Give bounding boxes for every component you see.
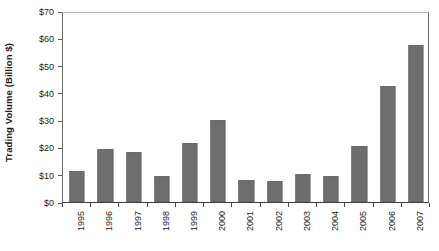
bar-slot [289,13,317,202]
x-axis-tick-mark [203,203,204,207]
bar-2003[interactable] [295,174,310,202]
x-axis-tick-mark [401,203,402,207]
y-axis-tick-label: $40 [39,89,54,99]
bars-layer [63,13,428,202]
bar-slot [402,13,430,202]
bar-slot [232,13,260,202]
y-axis-title-text: Trading Volume (Billion $) [4,43,15,162]
x-axis-tick-mark [344,203,345,207]
bar-2000[interactable] [211,120,226,202]
x-axis-tick-mark [147,203,148,207]
bar-slot [91,13,119,202]
bar-slot [176,13,204,202]
bar-slot [317,13,345,202]
bar-2006[interactable] [380,86,395,202]
bar-slot [374,13,402,202]
x-axis-tick-mark [316,203,317,207]
bar-chart: Trading Volume (Billion $) $0$10$20$30$4… [0,0,439,251]
plot-area [62,12,429,203]
x-axis-tick-mark [288,203,289,207]
x-axis-tick-mark [118,203,119,207]
x-axis-tick-label-text: 2007 [415,211,425,231]
bar-2004[interactable] [324,176,339,202]
bar-slot [345,13,373,202]
y-axis-title: Trading Volume (Billion $) [0,0,18,205]
bar-slot [63,13,91,202]
y-axis-tick-label: $30 [39,116,54,126]
x-axis: 1995199619971998199920002001200220032004… [62,203,429,251]
bar-1995[interactable] [69,171,84,202]
x-axis-tick-label-2007: 2007 [395,209,435,249]
bar-slot [119,13,147,202]
y-axis-tick-label: $20 [39,143,54,153]
bar-slot [261,13,289,202]
x-axis-tick-mark [231,203,232,207]
x-axis-tick-mark [90,203,91,207]
bar-1996[interactable] [98,149,113,202]
y-axis-tick-label: $50 [39,62,54,72]
x-axis-tick-mark [429,203,430,207]
y-axis-tick-label: $60 [39,34,54,44]
y-axis-tick-labels: $0$10$20$30$40$50$60$70 [18,0,58,251]
bar-2005[interactable] [352,146,367,202]
x-axis-tick-mark [260,203,261,207]
x-axis-tick-mark [175,203,176,207]
bar-2001[interactable] [239,180,254,202]
y-axis-tick-label: $10 [39,171,54,181]
bar-2002[interactable] [267,181,282,202]
x-axis-tick-mark [373,203,374,207]
bar-1999[interactable] [182,143,197,202]
bar-1998[interactable] [154,176,169,202]
bar-slot [148,13,176,202]
bar-1997[interactable] [126,152,141,202]
y-axis-tick-label: $0 [44,198,54,208]
bar-slot [204,13,232,202]
bar-2007[interactable] [408,45,423,202]
x-axis-tick-mark [62,203,63,207]
y-axis-tick-label: $70 [39,7,54,17]
